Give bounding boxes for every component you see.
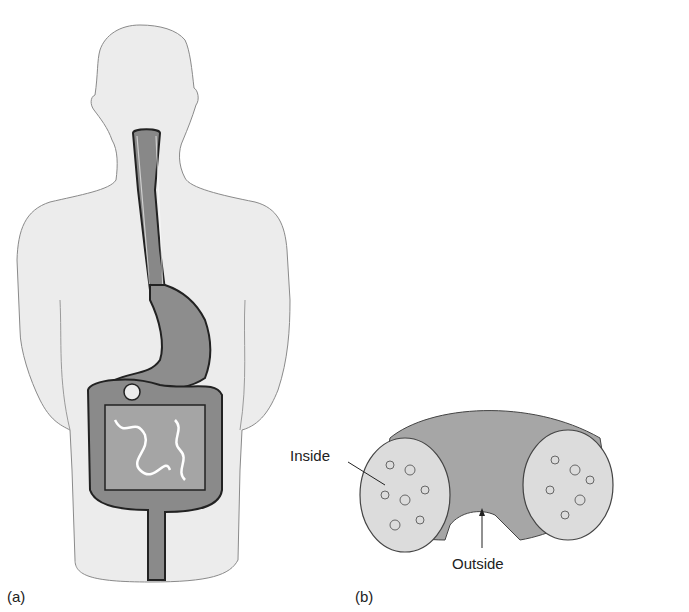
cross-section-right [523,430,613,540]
small-intestine [105,405,205,490]
outside-label: Outside [452,555,504,572]
panel-a-label: (a) [7,588,25,605]
panel-b: Inside Outside (b) [280,400,689,612]
panel-b-label: (b) [355,588,373,605]
panel-a: (a) [0,0,300,612]
human-digestive-illustration [0,0,300,612]
bent-tube-illustration [280,400,689,612]
inside-label: Inside [290,447,330,464]
